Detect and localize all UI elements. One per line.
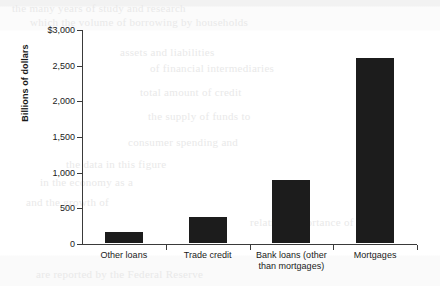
y-axis-title: Billions of dollars [20,28,30,138]
y-axis-tick-label: 2,000 [15,96,75,106]
y-axis-tick [77,173,82,174]
bar [105,232,143,243]
y-axis-tick [77,244,82,245]
x-axis-tick-label: Mortgages [333,250,417,261]
x-axis-tick-label: Other loans [82,250,166,261]
y-axis-tick [77,66,82,67]
y-axis-tick [77,208,82,209]
scanned-figure-page: the many years of study and research whi… [0,0,440,286]
y-axis-tick-label: 2,500 [15,61,75,71]
bar-chart: Billions of dollars 05001,0001,5002,0002… [0,0,440,286]
x-axis-tick-label: Bank loans (other than mortgages) [250,250,334,272]
bar [189,217,227,243]
y-axis-tick [77,137,82,138]
x-axis-tick-label: Trade credit [166,250,250,261]
y-axis-tick-label: 0 [15,239,75,249]
y-axis-tick-label: 1,000 [15,168,75,178]
x-axis-tick [417,245,418,250]
bar [356,58,394,243]
y-axis-tick-label: 1,500 [15,132,75,142]
y-axis-tick-label: $3,000 [15,25,75,35]
y-axis-tick [77,101,82,102]
bar [272,180,310,243]
y-axis-tick [77,30,82,31]
y-axis-line [82,30,83,245]
plot-area: 05001,0001,5002,0002,500$3,000 Other loa… [82,30,417,244]
y-axis-tick-label: 500 [15,203,75,213]
